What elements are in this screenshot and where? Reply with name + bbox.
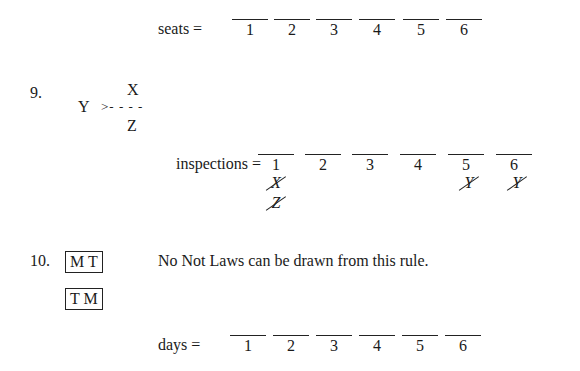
seat-slot: 1	[232, 19, 268, 39]
day-slot: 5	[402, 335, 438, 355]
rule-note: No Not Laws can be drawn from this rule.	[158, 252, 429, 270]
seat-slot: 2	[274, 19, 310, 39]
inspections-label: inspections =	[176, 155, 261, 173]
day-slot: 1	[230, 335, 266, 355]
day-slot: 3	[316, 335, 352, 355]
diagram-left-var: Y	[78, 98, 90, 116]
day-slot: 6	[445, 335, 481, 355]
block-mt: M T	[65, 251, 103, 273]
seat-slot: 6	[446, 19, 482, 39]
diagram-connector: >- - - -	[101, 99, 143, 115]
not-law-mark: Z	[263, 194, 289, 212]
rule-number: 10.	[30, 252, 50, 270]
diagram-bottom-var: Z	[127, 117, 137, 135]
day-slot: 4	[359, 335, 395, 355]
inspection-slot: 1	[258, 154, 294, 174]
block-tm: T M	[65, 288, 103, 310]
inspection-slot: 5	[448, 154, 484, 174]
rule-number: 9.	[30, 84, 42, 102]
seats-label: seats =	[158, 20, 202, 38]
seat-slot: 4	[359, 19, 395, 39]
not-law-mark: Y	[456, 174, 482, 192]
seat-slot: 3	[316, 19, 352, 39]
seat-slot: 5	[403, 19, 439, 39]
inspection-slot: 4	[400, 154, 436, 174]
inspection-slot: 2	[305, 154, 341, 174]
inspection-slot: 6	[496, 154, 532, 174]
day-slot: 2	[273, 335, 309, 355]
diagram-top-var: X	[127, 81, 139, 99]
inspection-slot: 3	[352, 154, 388, 174]
days-label: days =	[158, 336, 200, 354]
not-law-mark: X	[263, 174, 289, 192]
not-law-mark: Y	[504, 174, 530, 192]
